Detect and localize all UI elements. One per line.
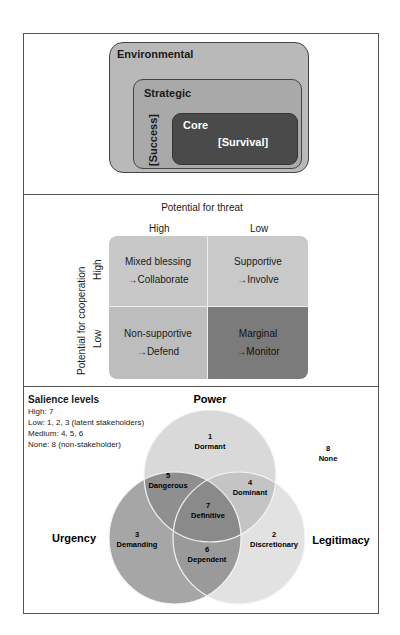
region-6-name: Dependent (188, 555, 227, 564)
strategic-label: Strategic (144, 87, 191, 99)
venn-diagram: Power Urgency Legitimacy 1 Dormant 2 Dis… (24, 387, 378, 613)
matrix-cell-supportive: Supportive →Involve (208, 236, 308, 307)
region-8-name: None (319, 454, 338, 463)
region-6-num: 6 (205, 545, 209, 554)
region-5-num: 5 (166, 471, 170, 480)
region-1-num: 1 (208, 432, 212, 441)
core-box: Core [Survival] (172, 113, 298, 165)
threat-high-label: High (149, 223, 170, 234)
stakeholder-layers-panel: Environmental Strategic [Success] Core [… (23, 33, 379, 195)
success-label: [Success] (147, 114, 159, 166)
matrix-cell-marginal: Marginal →Monitor (208, 307, 308, 379)
region-1-name: Dormant (195, 442, 226, 451)
cooperation-axis-title: Potential for cooperation (76, 267, 87, 375)
region-4-name: Dominant (233, 488, 268, 497)
cell-action: →Involve (237, 271, 279, 289)
matrix-cell-non-supportive: Non-supportive →Defend (109, 307, 208, 379)
threat-axis-title: Potential for threat (24, 202, 380, 213)
threat-low-label: Low (250, 223, 268, 234)
environmental-label: Environmental (117, 48, 193, 60)
cell-name: Mixed blessing (125, 253, 191, 271)
urgency-title: Urgency (52, 532, 97, 544)
region-2-name: Discretionary (250, 540, 299, 549)
cell-name: Marginal (239, 325, 277, 343)
cell-action: →Collaborate (127, 271, 188, 289)
core-label: Core (183, 119, 208, 131)
survival-label: [Survival] (218, 136, 268, 148)
region-8-num: 8 (326, 444, 330, 453)
cell-action: →Monitor (236, 343, 279, 361)
environmental-box: Environmental Strategic [Success] Core [… (109, 42, 309, 173)
region-3-name: Demanding (117, 540, 158, 549)
cooperation-low-label: Low (92, 330, 103, 348)
cell-name: Non-supportive (124, 325, 192, 343)
matrix-cell-mixed-blessing: Mixed blessing →Collaborate (109, 236, 208, 307)
region-5-name: Dangerous (148, 481, 187, 490)
region-7-num: 7 (206, 501, 210, 510)
threat-cooperation-matrix-panel: Potential for threat High Low Potential … (23, 194, 379, 387)
cell-name: Supportive (234, 253, 282, 271)
cooperation-high-label: High (92, 259, 103, 280)
region-7-name: Definitive (191, 511, 225, 520)
legitimacy-title: Legitimacy (312, 534, 370, 546)
matrix-grid: Mixed blessing →Collaborate Supportive →… (109, 236, 308, 379)
salience-venn-panel: Salience levels High: 7 Low: 1, 2, 3 (la… (23, 386, 379, 614)
strategic-box: Strategic [Success] Core [Survival] (133, 79, 302, 169)
region-3-num: 3 (135, 530, 139, 539)
cell-action: →Defend (137, 343, 179, 361)
region-2-num: 2 (272, 530, 276, 539)
power-title: Power (193, 393, 227, 405)
